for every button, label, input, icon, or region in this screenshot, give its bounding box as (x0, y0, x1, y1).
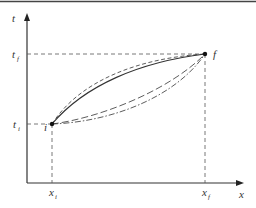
point-f-label: f (213, 48, 218, 60)
svg-text:t: t (12, 48, 16, 60)
axes (24, 13, 244, 186)
guide-lines (27, 54, 205, 183)
svg-text:i: i (55, 193, 57, 201)
path-long-dash-lower (52, 54, 205, 124)
svg-text:x: x (201, 186, 207, 198)
svg-text:i: i (18, 125, 20, 133)
t-axis-arrow-icon (24, 13, 30, 21)
xi-label: x i (48, 186, 57, 201)
svg-text:x: x (48, 186, 54, 198)
xf-label: x f (201, 186, 211, 201)
x-axis-label: x (238, 188, 244, 200)
svg-text:f: f (208, 193, 211, 201)
tf-label: t f (12, 48, 20, 63)
path-diagram: t x i f t f t i x i x f (0, 0, 256, 208)
path-dash-dot-lower (52, 54, 205, 124)
point-i-label: i (44, 121, 47, 133)
point-f (203, 52, 207, 56)
ti-label: t i (13, 118, 20, 133)
svg-text:t: t (13, 118, 17, 130)
point-i (50, 122, 54, 126)
t-axis-label: t (12, 12, 16, 24)
paths (52, 54, 205, 124)
path-solid (52, 54, 205, 124)
path-dashed-upper (52, 54, 205, 124)
x-axis-arrow-icon (236, 180, 244, 186)
svg-text:f: f (17, 55, 20, 63)
